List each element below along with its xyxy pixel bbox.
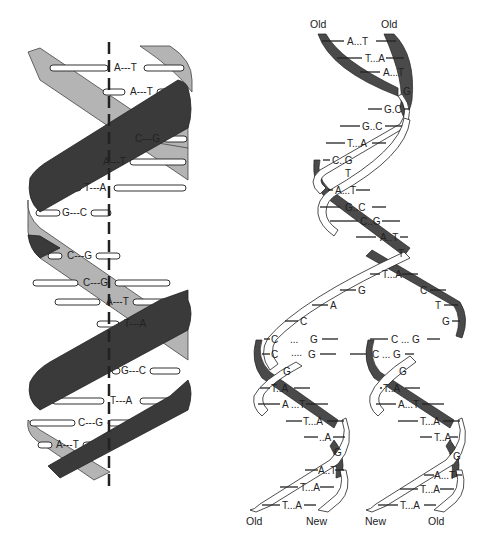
pair-label: T...A [365, 53, 385, 64]
base-label: G [283, 366, 291, 377]
dots-label: .... [291, 347, 302, 358]
left-helix: A---T A---T C---G A---T T---A G---C C---… [28, 42, 192, 488]
base-label: G [358, 285, 366, 296]
base-label: G [334, 447, 342, 458]
pair-label: T...A [420, 484, 440, 495]
base-pair-label: C---G [78, 417, 103, 428]
pair-label: A...T [383, 67, 404, 78]
pair-label: G [403, 86, 411, 97]
label-old-bottom-left: Old [246, 515, 263, 527]
base-pair-label: C---G [135, 133, 160, 144]
base-pair-label: T---A [84, 182, 107, 193]
base-pair-label: T---A [110, 395, 133, 406]
pair-label: T...A [282, 500, 302, 511]
pair-label: C ... G [372, 349, 401, 360]
pair-label: T..A [434, 432, 452, 443]
base-pair-label: T---A [124, 318, 147, 329]
dots-label: ... [290, 334, 298, 345]
pair-label: G..C [362, 121, 383, 132]
pair-label: A...T [434, 470, 455, 481]
label-new-bottom-right: New [365, 515, 386, 527]
base-label: C [271, 349, 278, 360]
right-daughter-labels: G T..A A...T T...A T..A G A...T T...A T.… [376, 366, 462, 511]
base-label: G [453, 451, 461, 462]
pair-label: C..G [332, 155, 353, 166]
base-pair-label: G---C [62, 207, 87, 218]
light-strand [318, 470, 348, 512]
base-pair-label: C---G [83, 277, 108, 288]
base-label: C [271, 334, 278, 345]
base-pair-label: C---G [67, 250, 92, 261]
base-pair-label: A---T [106, 296, 129, 307]
pair-label: A ...T [282, 399, 305, 410]
pair-label: C ... G [391, 334, 420, 345]
pair-label: T..A [383, 383, 401, 394]
label-old-top-right: Old [381, 18, 398, 30]
pair-label: T...A [420, 416, 440, 427]
label-old-bottom-right: Old [428, 515, 445, 527]
pair-label: T...A [300, 482, 320, 493]
replication-fork: Old Old [246, 18, 466, 527]
base-label: G [442, 316, 450, 327]
pair-label: G..C [345, 202, 366, 213]
pair-label: T...A [400, 500, 420, 511]
base-label: G [399, 366, 407, 377]
pair-label: C..G [360, 216, 381, 227]
pair-label: A...T [398, 399, 419, 410]
label-old-top-left: Old [310, 18, 327, 30]
pair-label: T...A [347, 138, 367, 149]
base-pair-label: A---T [130, 86, 153, 97]
base-pair-label: A---T [56, 439, 79, 450]
dna-figure: A---T A---T C---G A---T T---A G---C C---… [0, 0, 489, 553]
pair-label: A..T [318, 465, 336, 476]
pair-label: A...T [335, 185, 356, 196]
pair-label: T...A [303, 416, 323, 427]
pair-label: ..A [319, 432, 332, 443]
base-pair-label: G---C [121, 365, 146, 376]
base-label: G [310, 334, 318, 345]
pair-label: T [398, 248, 404, 259]
left-daughter-labels: G T..A A ...T T...A ..A G A..T T...A T..… [258, 366, 345, 511]
pair-label: G.C [384, 104, 402, 115]
pair-label: A..T [380, 232, 398, 243]
base-label: C [420, 285, 427, 296]
pair-label: A...T [347, 36, 368, 47]
base-label: T [435, 300, 441, 311]
pair-label: T [345, 168, 351, 179]
base-label: A [330, 300, 337, 311]
pair-label: T..A [271, 383, 289, 394]
pair-label: T...A [382, 269, 402, 280]
base-pair-label: A---T [103, 156, 126, 167]
base-label: C [300, 316, 307, 327]
base-pair-label: A---T [114, 62, 137, 73]
label-new-bottom-left: New [306, 515, 327, 527]
base-label: G [308, 349, 316, 360]
